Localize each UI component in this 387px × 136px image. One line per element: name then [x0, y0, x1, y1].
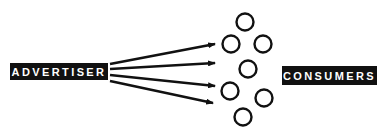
diagram-canvas — [0, 0, 387, 136]
arrow-1 — [110, 44, 215, 64]
consumer-circles-group — [222, 14, 273, 126]
consumer-circle-icon — [222, 83, 239, 100]
consumer-circle-icon — [235, 109, 252, 126]
arrows-group — [110, 44, 215, 103]
consumer-circle-icon — [255, 36, 272, 53]
consumer-circle-icon — [237, 14, 254, 31]
consumer-circle-icon — [240, 61, 257, 78]
arrow-2 — [110, 63, 215, 69]
consumer-circle-icon — [223, 36, 240, 53]
consumer-circle-icon — [256, 90, 273, 107]
